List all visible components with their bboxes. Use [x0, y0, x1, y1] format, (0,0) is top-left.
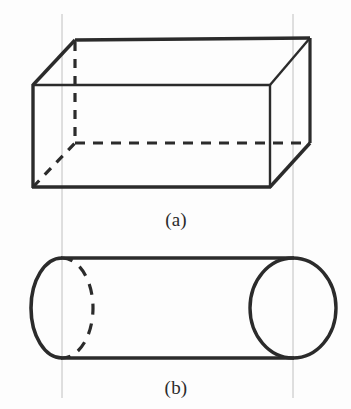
cylinder-left-cap-front-arc — [31, 258, 62, 358]
prism-hidden-edges — [33, 42, 310, 187]
caption-a: (a) — [165, 209, 187, 231]
prism-receding-edge-top-right — [270, 38, 310, 85]
cylinder-hidden-back-arc — [62, 258, 93, 358]
caption-b: (b) — [165, 377, 188, 399]
figure-container: (a) (b) — [0, 0, 351, 409]
prism-front-face — [32, 84, 271, 188]
prism-back-face — [75, 38, 310, 143]
prism-receding-edge-top-left — [33, 40, 75, 85]
rectangular-prism — [32, 38, 310, 188]
figure-canvas: (a) (b) — [0, 0, 351, 409]
cylinder — [31, 258, 336, 358]
prism-hidden-receding-edge — [33, 143, 75, 187]
prism-receding-edge-bottom-right — [270, 143, 310, 187]
prism-back-top-edge — [75, 38, 310, 40]
